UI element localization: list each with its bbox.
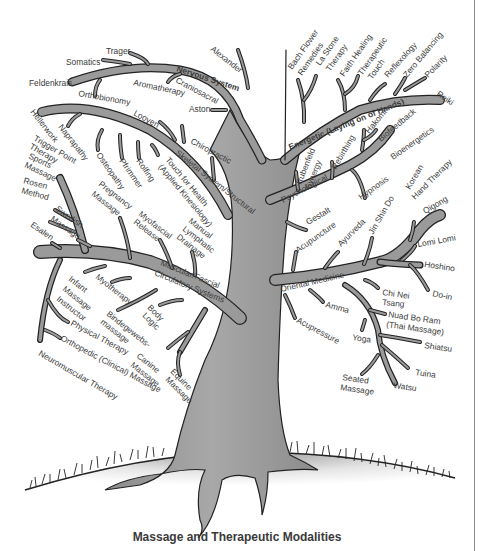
- label-somatics: Somatics: [66, 57, 100, 67]
- label-feldenkrais: Feldenkrais: [29, 78, 72, 88]
- tree-illustration: Nervous System Energetic (Laying on of H…: [0, 0, 478, 551]
- label-trager: Trager: [106, 46, 131, 56]
- label-tuina: Tuina: [415, 367, 437, 380]
- label-ayurveda: Ayurveda: [335, 216, 367, 248]
- label-seated-2: Massage: [340, 382, 375, 397]
- label-chi-nei-2: Tsang: [382, 297, 405, 309]
- label-watsu: Watsu: [393, 380, 418, 393]
- label-orthobionomy: Orthobionomy: [78, 88, 132, 107]
- label-jin-shin-do: Jin Shin Do: [366, 194, 396, 236]
- label-doin: Do-in: [432, 288, 454, 302]
- label-hoshino: Hoshino: [424, 259, 456, 273]
- label-acupuncture: Acupuncture: [293, 219, 338, 254]
- label-aston: Aston: [189, 104, 211, 114]
- right-border-line: [474, 0, 475, 551]
- label-shiatsu: Shiatsu: [424, 340, 453, 354]
- label-yoga: Yoga: [352, 332, 372, 345]
- label-acupressure: Acupressure: [295, 315, 342, 346]
- figure-caption: Massage and Therapeutic Modalities: [0, 530, 474, 544]
- label-amma: Amma: [324, 299, 350, 315]
